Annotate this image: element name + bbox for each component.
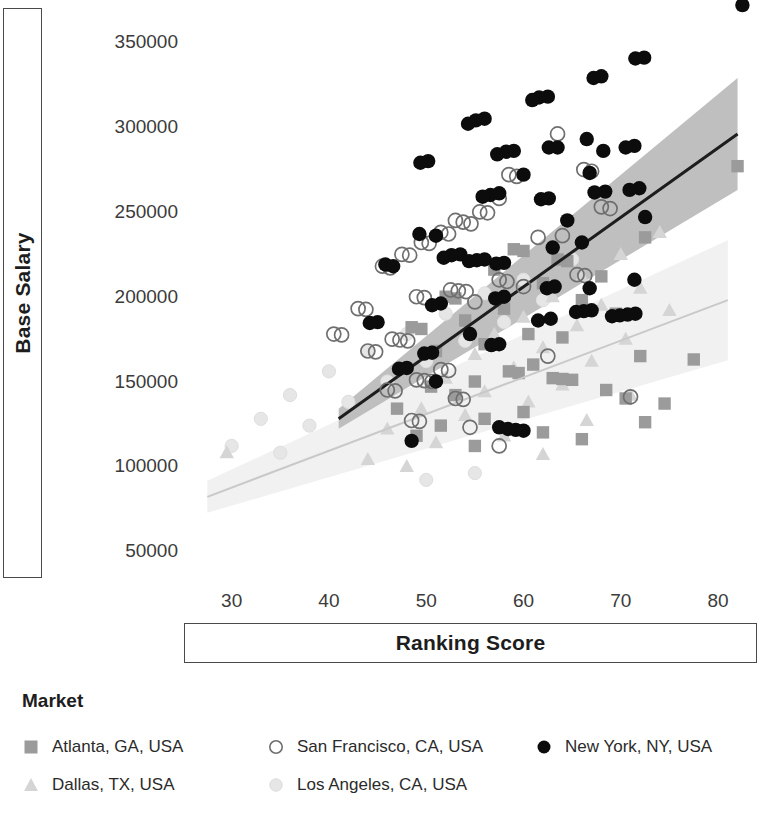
legend-item[interactable]: Los Angeles, CA, USA (267, 775, 535, 795)
data-point (475, 189, 489, 203)
y-tick-label: 150000 (68, 371, 178, 393)
data-point (534, 192, 548, 206)
legend-item[interactable]: San Francisco, CA, USA (267, 737, 535, 757)
plot-canvas (183, 0, 757, 585)
data-point (582, 281, 596, 295)
data-point (497, 316, 510, 329)
x-tick-label: 30 (221, 590, 242, 612)
data-point (566, 374, 578, 386)
data-point (556, 331, 568, 343)
data-point (464, 217, 478, 231)
data-point (386, 259, 400, 273)
data-point (628, 51, 642, 65)
data-point (429, 374, 443, 388)
x-axis-tick-labels: 304050607080 (0, 590, 757, 618)
data-point (586, 71, 600, 85)
data-point (587, 185, 601, 199)
data-point (531, 313, 545, 327)
data-point (537, 426, 549, 438)
y-axis-title-box: Base Salary (3, 8, 42, 578)
data-point (596, 144, 610, 158)
faint-circle-marker (267, 776, 285, 794)
data-point (412, 227, 426, 241)
data-point (542, 140, 556, 154)
x-axis-title-box: Ranking Score (184, 623, 757, 663)
data-point (391, 402, 403, 414)
filled-circle-marker (535, 738, 553, 756)
y-axis-title: Base Salary (11, 232, 35, 353)
data-point (658, 397, 670, 409)
data-point (580, 413, 594, 426)
y-tick-label: 50000 (68, 540, 178, 562)
data-point (442, 227, 456, 241)
data-point (560, 213, 574, 227)
data-point (639, 416, 651, 428)
data-point (522, 328, 534, 340)
x-tick-label: 50 (416, 590, 437, 612)
data-point (527, 358, 539, 370)
plot-area (183, 0, 757, 585)
data-point (392, 362, 406, 376)
data-point (484, 338, 498, 352)
data-point (536, 447, 550, 460)
scatter-chart: Base Salary 5000010000015000020000025000… (0, 0, 757, 823)
data-point (461, 117, 475, 131)
legend-item-label: Dallas, TX, USA (52, 775, 175, 795)
data-point (634, 350, 646, 362)
data-point (469, 375, 481, 387)
data-point (478, 413, 490, 425)
data-point (595, 270, 607, 282)
x-tick-label: 80 (708, 590, 729, 612)
data-point (605, 309, 619, 323)
data-point (688, 353, 700, 365)
data-point (400, 459, 414, 472)
data-point (413, 156, 427, 170)
data-point (283, 388, 296, 401)
x-tick-label: 40 (318, 590, 339, 612)
legend-item[interactable]: Dallas, TX, USA (22, 775, 267, 795)
data-point (735, 0, 749, 12)
y-axis-tick-labels: 5000010000015000020000025000030000035000… (60, 0, 178, 585)
data-point (429, 228, 443, 242)
data-point (417, 346, 431, 360)
legend-item[interactable]: Atlanta, GA, USA (22, 737, 267, 757)
data-point (544, 312, 558, 326)
data-point (545, 240, 559, 254)
data-point (582, 166, 596, 180)
legend-item-label: Los Angeles, CA, USA (297, 775, 467, 795)
data-point (731, 160, 743, 172)
legend-item-label: San Francisco, CA, USA (297, 737, 483, 757)
data-point (488, 291, 502, 305)
legend-title: Market (22, 690, 757, 712)
data-point (551, 127, 565, 141)
open-circle-marker (267, 738, 285, 756)
data-point (404, 434, 418, 448)
data-point (525, 93, 539, 107)
data-point (437, 251, 451, 265)
y-tick-label: 200000 (68, 286, 178, 308)
square-marker (22, 738, 40, 756)
confidence-band (207, 240, 727, 513)
x-axis-title: Ranking Score (396, 631, 546, 655)
data-point (469, 440, 481, 452)
x-tick-label: 60 (513, 590, 534, 612)
data-point (463, 327, 477, 341)
data-point (516, 423, 530, 437)
data-point (468, 466, 481, 479)
data-point (490, 147, 504, 161)
legend-items: Atlanta, GA, USASan Francisco, CA, USANe… (22, 728, 757, 804)
data-point (639, 231, 651, 243)
data-point (540, 281, 554, 295)
data-point (576, 433, 588, 445)
legend-item[interactable]: New York, NY, USA (535, 737, 757, 757)
data-point (342, 395, 355, 408)
data-point (622, 183, 636, 197)
data-point (425, 298, 439, 312)
y-tick-label: 100000 (68, 455, 178, 477)
data-point (618, 140, 632, 154)
legend-item-label: Atlanta, GA, USA (52, 737, 183, 757)
data-point (274, 446, 287, 459)
legend: Market Atlanta, GA, USASan Francisco, CA… (22, 690, 757, 804)
data-point (489, 256, 503, 270)
data-point (303, 419, 316, 432)
